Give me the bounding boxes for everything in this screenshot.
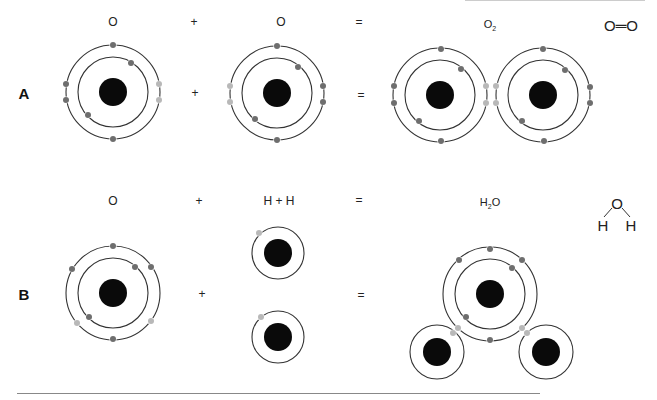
nucleus (476, 280, 504, 308)
hydrogen-top (252, 227, 304, 279)
water-bond-left (604, 208, 612, 217)
electron (148, 264, 154, 270)
electron (69, 266, 75, 272)
electron (110, 42, 116, 48)
electron (274, 43, 280, 49)
electron (438, 138, 444, 144)
electron (562, 67, 568, 73)
electron (487, 246, 493, 252)
electron (320, 83, 326, 89)
shared-electron (455, 325, 461, 331)
electron (519, 257, 525, 263)
atom-diagram-canvas (0, 0, 657, 400)
electron (509, 265, 515, 271)
h2o-hydrogen-right (519, 325, 573, 379)
electron (252, 116, 258, 122)
nucleus (263, 79, 291, 107)
shared-electron (227, 83, 233, 89)
shared-electron (493, 83, 499, 89)
shared-electron (483, 83, 489, 89)
electron (391, 100, 397, 106)
electron (110, 243, 116, 249)
electron (110, 336, 116, 342)
hydrogen-bottom (252, 311, 304, 363)
o2-oxygen-left (390, 45, 489, 144)
nucleus (532, 338, 560, 366)
electron (63, 81, 69, 87)
electron (463, 314, 469, 320)
shared-electron (156, 97, 162, 103)
water-bond-right (622, 208, 630, 217)
shared-electron (524, 330, 530, 336)
atoms-group (62, 41, 593, 379)
nucleus (426, 81, 454, 109)
shared-electron (493, 100, 499, 106)
row-b-oxygen (66, 242, 160, 342)
shared-electron (483, 100, 489, 106)
electron (63, 97, 69, 103)
shared-electron (227, 99, 233, 105)
electron (85, 112, 91, 118)
shared-electron (74, 320, 80, 326)
electron (587, 84, 593, 90)
h2o-oxygen (443, 245, 537, 343)
electron (274, 137, 280, 143)
electron (391, 83, 397, 89)
electron (458, 66, 464, 72)
electron (540, 46, 546, 52)
shared-electron (519, 325, 525, 331)
electron (487, 337, 493, 343)
nucleus (264, 323, 292, 351)
nucleus (423, 338, 451, 366)
h2o-hydrogen-left (410, 325, 464, 379)
nucleus (264, 239, 292, 267)
shared-electron (156, 81, 162, 87)
electron (320, 99, 326, 105)
row-a-oxygen-2 (226, 42, 326, 143)
o2-oxygen-right (492, 45, 593, 144)
row-a-oxygen-1 (62, 41, 162, 142)
electron (456, 257, 462, 263)
electron (295, 64, 301, 70)
electron (110, 136, 116, 142)
electron (86, 314, 92, 320)
electron (519, 118, 525, 124)
shared-electron (450, 330, 456, 336)
shared-electron (256, 230, 262, 236)
nucleus (99, 279, 127, 307)
electron (132, 264, 138, 270)
nucleus (99, 78, 127, 106)
electron (541, 138, 547, 144)
electron (438, 46, 444, 52)
shared-electron (258, 314, 264, 320)
electron (416, 118, 422, 124)
nucleus (529, 81, 557, 109)
shared-electron (148, 318, 154, 324)
electron (587, 100, 593, 106)
electron (128, 60, 134, 66)
